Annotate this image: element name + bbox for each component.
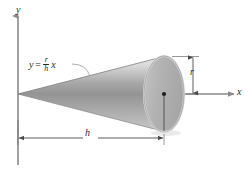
- base-center-dot: [162, 92, 166, 96]
- equation-leader-curve: [72, 64, 90, 76]
- equation-leader: [72, 64, 90, 76]
- equation-denominator: h: [43, 65, 49, 73]
- equation-variable: x: [51, 60, 55, 70]
- height-label: h: [85, 128, 90, 138]
- equation-fraction: r h: [43, 56, 49, 74]
- equation-numerator: r: [44, 56, 49, 64]
- equation-lhs: y: [29, 60, 33, 70]
- cone-diagram-svg: [0, 0, 251, 181]
- y-axis-label: y: [16, 5, 20, 15]
- line-equation-label: y = r h x: [29, 56, 56, 74]
- base-shadow: [151, 130, 181, 136]
- x-axis-label: x: [237, 87, 241, 97]
- equation-equals: =: [34, 60, 41, 70]
- cone-figure: y x r h y = r h x: [0, 0, 251, 181]
- radius-label: r: [190, 67, 194, 77]
